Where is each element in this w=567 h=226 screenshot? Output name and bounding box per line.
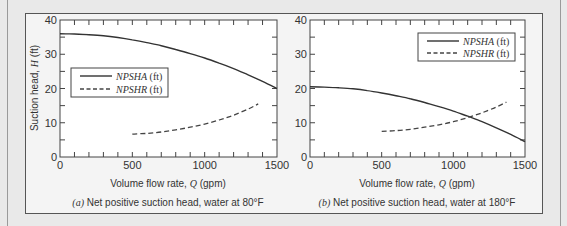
y-tick-label: 20	[295, 83, 307, 95]
y-tick-labels-b: 010203040	[295, 14, 307, 163]
x-tick-label: 500	[123, 159, 141, 171]
legend-b: NPSHA (ft) NPSHR (ft)	[418, 33, 515, 61]
x-tick-label: 1000	[192, 159, 216, 171]
chart-a: 010203040 050010001500 NPSHA (ft) NPSHR …	[29, 14, 289, 209]
x-axis-label-b: Volume flow rate, Q (gpm)	[359, 178, 475, 189]
x-tick-label: 0	[57, 159, 63, 171]
x-tick-label: 1500	[265, 159, 289, 171]
y-tick-label: 10	[295, 117, 307, 129]
y-tick-label: 10	[45, 117, 57, 129]
chart-b: 010203040 050010001500 NPSHA (ft) NPSHR …	[295, 14, 537, 209]
legend-npshr-a: NPSHR (ft)	[115, 84, 162, 96]
y-tick-label: 30	[45, 48, 57, 60]
caption-b: (b) Net positive suction head, water at …	[319, 197, 516, 209]
x-tick-label: 0	[307, 159, 313, 171]
figure-canvas: 010203040 050010001500 NPSHA (ft) NPSHR …	[0, 0, 567, 226]
y-tick-label: 20	[45, 83, 57, 95]
y-tick-labels-a: 010203040	[45, 14, 57, 163]
legend-npsha-a: NPSHA (ft)	[115, 71, 162, 83]
legend-npshr-b: NPSHR (ft)	[462, 48, 509, 60]
caption-a: (a) Net positive suction head, water at …	[72, 197, 263, 209]
legend-npsha-b: NPSHA (ft)	[462, 36, 509, 48]
legend-a: NPSHA (ft) NPSHR (ft)	[71, 68, 168, 97]
y-tick-label: 40	[45, 14, 57, 26]
x-tick-label: 1000	[441, 159, 465, 171]
x-axis-label-a: Volume flow rate, Q (gpm)	[110, 178, 226, 189]
y-tick-label: 40	[295, 14, 307, 26]
x-tick-labels-a: 050010001500	[57, 159, 289, 171]
y-tick-label: 30	[295, 48, 307, 60]
x-tick-label: 500	[372, 159, 390, 171]
x-tick-label: 1500	[513, 159, 537, 171]
y-axis-label-a: Suction head, H (ft)	[29, 45, 40, 131]
x-tick-labels-b: 050010001500	[307, 159, 537, 171]
